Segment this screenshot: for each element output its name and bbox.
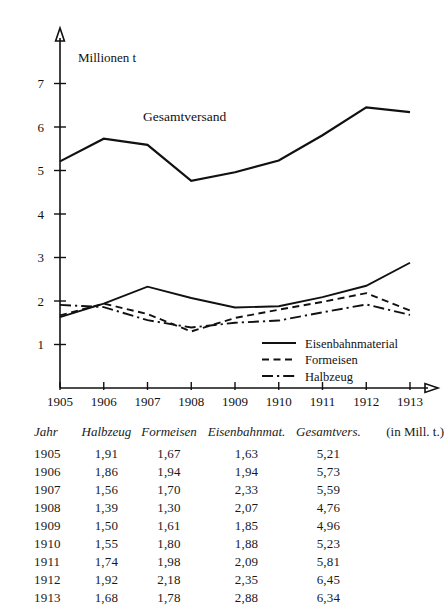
table-cell-value: 1,30 xyxy=(136,499,203,517)
x-tick-label: 1906 xyxy=(91,394,118,409)
table-cell-value: 1,98 xyxy=(136,553,203,571)
y-axis-ticks: 1234567 xyxy=(38,76,67,352)
table-cell-value: 2,09 xyxy=(202,553,290,571)
table-cell-value: 1,80 xyxy=(136,535,203,553)
table-cell-value: 1,91 xyxy=(77,445,135,463)
table-cell-jahr: 1907 xyxy=(34,481,77,499)
table-cell-value: 1,68 xyxy=(77,589,135,607)
table-header-eisenbahnmat: Eisenbahnmat. xyxy=(202,424,290,445)
y-tick-label: 2 xyxy=(38,294,45,309)
table-cell-spacer xyxy=(366,463,444,481)
table-cell-value: 1,74 xyxy=(77,553,135,571)
table-cell-value: 1,55 xyxy=(77,535,135,553)
table-cell-spacer xyxy=(366,571,444,589)
table-header-gesamtvers: Gesamtvers. xyxy=(291,424,367,445)
table-cell-value: 6,45 xyxy=(291,571,367,589)
table-cell-jahr: 1913 xyxy=(34,589,77,607)
table-cell-value: 5,81 xyxy=(291,553,367,571)
series-line-gesamtversand xyxy=(60,107,410,181)
table-cell-spacer xyxy=(366,481,444,499)
table-row: 19051,911,671,635,21 xyxy=(34,445,444,463)
table-cell-value: 1,86 xyxy=(77,463,135,481)
table-cell-jahr: 1906 xyxy=(34,463,77,481)
series-line-formeisen xyxy=(60,293,410,331)
table-header-formeisen: Formeisen xyxy=(136,424,203,445)
y-tick-label: 4 xyxy=(38,207,45,222)
y-tick-label: 3 xyxy=(38,250,45,265)
legend-label-halbzeug: Halbzeug xyxy=(305,370,354,384)
table-header-unit-note: (in Mill. t.) xyxy=(366,424,444,445)
y-tick-label: 1 xyxy=(38,337,45,352)
table-cell-value: 1,94 xyxy=(136,463,203,481)
table-cell-value: 5,23 xyxy=(291,535,367,553)
table-cell-spacer xyxy=(366,517,444,535)
x-axis-ticks: 190519061907190819091910191119121913 xyxy=(47,382,423,409)
table-cell-jahr: 1912 xyxy=(34,571,77,589)
table-cell-value: 1,94 xyxy=(202,463,290,481)
table-cell-value: 2,35 xyxy=(202,571,290,589)
table-cell-spacer xyxy=(366,499,444,517)
table-cell-jahr: 1908 xyxy=(34,499,77,517)
table-cell-value: 1,39 xyxy=(77,499,135,517)
table-cell-value: 4,96 xyxy=(291,517,367,535)
table-cell-value: 1,88 xyxy=(202,535,290,553)
chart-svg: 1234567 19051906190719081909191019111912… xyxy=(0,0,444,412)
table-cell-value: 1,50 xyxy=(77,517,135,535)
line-chart: 1234567 19051906190719081909191019111912… xyxy=(0,0,444,412)
chart-legend: EisenbahnmaterialFormeisenHalbzeug xyxy=(262,337,399,384)
table-cell-value: 1,70 xyxy=(136,481,203,499)
x-tick-label: 1907 xyxy=(135,394,162,409)
table-cell-value: 5,59 xyxy=(291,481,367,499)
table-row: 19131,681,782,886,34 xyxy=(34,589,444,607)
data-table: Jahr Halbzeug Formeisen Eisenbahnmat. Ge… xyxy=(34,424,444,607)
table-cell-value: 1,78 xyxy=(136,589,203,607)
table-row: 19091,501,611,854,96 xyxy=(34,517,444,535)
y-tick-label: 7 xyxy=(38,76,45,91)
table-cell-spacer xyxy=(366,553,444,571)
x-tick-label: 1908 xyxy=(178,394,204,409)
table-row: 19081,391,302,074,76 xyxy=(34,499,444,517)
table-row: 19111,741,982,095,81 xyxy=(34,553,444,571)
x-tick-label: 1910 xyxy=(266,394,292,409)
table-row: 19061,861,941,945,73 xyxy=(34,463,444,481)
table-cell-value: 1,92 xyxy=(77,571,135,589)
table-cell-jahr: 1909 xyxy=(34,517,77,535)
gesamtversand-inline-label: Gesamtversand xyxy=(143,109,226,124)
table-cell-value: 5,21 xyxy=(291,445,367,463)
x-tick-label: 1909 xyxy=(222,394,248,409)
table-row: 19121,922,182,356,45 xyxy=(34,571,444,589)
table-cell-value: 1,61 xyxy=(136,517,203,535)
x-tick-label: 1913 xyxy=(397,394,423,409)
table-cell-value: 2,18 xyxy=(136,571,203,589)
table-cell-jahr: 1905 xyxy=(34,445,77,463)
table-row: 19071,561,702,335,59 xyxy=(34,481,444,499)
legend-label-eisenbahnmaterial: Eisenbahnmaterial xyxy=(305,337,399,351)
y-tick-label: 6 xyxy=(38,120,45,135)
table-cell-value: 2,33 xyxy=(202,481,290,499)
table-cell-value: 4,76 xyxy=(291,499,367,517)
table-cell-value: 2,07 xyxy=(202,499,290,517)
data-series-layer xyxy=(60,107,410,331)
x-tick-label: 1911 xyxy=(310,394,336,409)
table-cell-value: 2,88 xyxy=(202,589,290,607)
y-axis-unit-label: Millionen t xyxy=(78,50,137,65)
table-cell-spacer xyxy=(366,445,444,463)
table-body: 19051,911,671,635,2119061,861,941,945,73… xyxy=(34,445,444,607)
data-table-container: Jahr Halbzeug Formeisen Eisenbahnmat. Ge… xyxy=(0,424,444,585)
table-header-halbzeug: Halbzeug xyxy=(77,424,135,445)
table-cell-value: 1,56 xyxy=(77,481,135,499)
table-cell-value: 6,34 xyxy=(291,589,367,607)
table-cell-jahr: 1910 xyxy=(34,535,77,553)
table-header-row: Jahr Halbzeug Formeisen Eisenbahnmat. Ge… xyxy=(34,424,444,445)
x-tick-label: 1905 xyxy=(47,394,73,409)
table-cell-jahr: 1911 xyxy=(34,553,77,571)
x-tick-label: 1912 xyxy=(353,394,379,409)
table-cell-value: 1,85 xyxy=(202,517,290,535)
table-cell-value: 1,63 xyxy=(202,445,290,463)
table-cell-value: 5,73 xyxy=(291,463,367,481)
table-cell-spacer xyxy=(366,589,444,607)
table-cell-spacer xyxy=(366,535,444,553)
table-row: 19101,551,801,885,23 xyxy=(34,535,444,553)
y-tick-label: 5 xyxy=(38,163,45,178)
